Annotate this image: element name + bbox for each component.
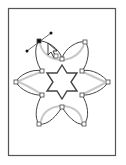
- anchor-point[interactable]: [40, 93, 44, 97]
- anchor-point[interactable]: [40, 69, 44, 73]
- anchor-point[interactable]: [80, 69, 84, 73]
- handle-point-a[interactable]: [50, 32, 53, 35]
- artboard-frame: [9, 9, 116, 156]
- handle-point-b[interactable]: [26, 50, 29, 53]
- anchor-point[interactable]: [80, 93, 84, 97]
- anchor-point[interactable]: [106, 80, 110, 84]
- anchor-point[interactable]: [37, 122, 41, 126]
- anchor-point[interactable]: [60, 57, 64, 61]
- anchor-point[interactable]: [83, 40, 87, 44]
- vector-artwork[interactable]: [0, 0, 126, 165]
- anchor-point[interactable]: [60, 105, 64, 109]
- illustration-canvas[interactable]: [0, 0, 126, 165]
- anchor-point[interactable]: [82, 122, 86, 126]
- anchor-point-selected[interactable]: [37, 39, 41, 43]
- anchor-point[interactable]: [14, 80, 18, 84]
